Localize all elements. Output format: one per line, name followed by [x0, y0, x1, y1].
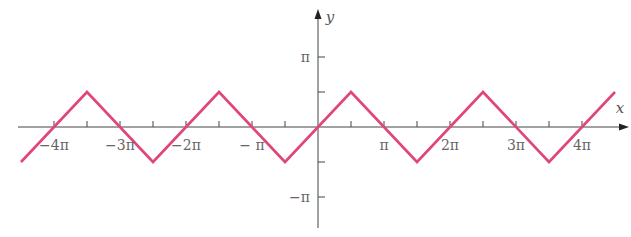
y-axis-arrow-icon [315, 9, 322, 19]
y-tick-label: −π [289, 189, 310, 205]
chart: −4π−3π−2π− ππ2π3π4ππ−πxy [0, 0, 631, 237]
x-tick-label: π [379, 137, 388, 153]
axes [18, 9, 629, 228]
x-tick-label: − π [239, 137, 264, 153]
x-tick-label: −2π [171, 137, 201, 153]
y-axis-label: y [325, 8, 335, 26]
x-tick-label: −3π [105, 137, 135, 153]
x-tick-label: 4π [573, 137, 591, 153]
x-axis-arrow-icon [619, 124, 629, 131]
y-tick-label: π [301, 49, 310, 65]
x-tick-label: 2π [441, 137, 459, 153]
x-axis-label: x [616, 99, 625, 117]
x-tick-label: −4π [39, 137, 69, 153]
labels: −4π−3π−2π− ππ2π3π4ππ−πxy [39, 8, 625, 205]
x-tick-label: 3π [507, 137, 525, 153]
